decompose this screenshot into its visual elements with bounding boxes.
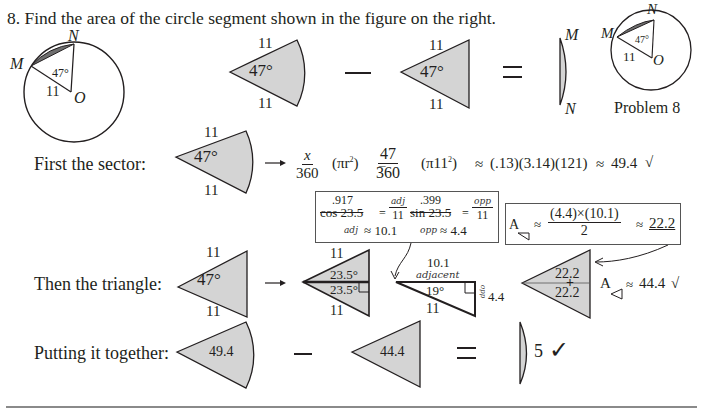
small-point-n-label: N (647, 2, 657, 17)
sector-arrow-head (280, 160, 286, 166)
adj-over-11: adj 11 (389, 197, 407, 221)
half-area-result: 22.2 (649, 216, 675, 231)
overview-triangle-angle: 47° (420, 63, 444, 80)
point-m-label: M (10, 56, 23, 72)
triangle-step-label: Then the triangle: (34, 275, 162, 293)
overview-segment-m: M (565, 27, 578, 43)
area-denominator: 2 (581, 223, 588, 238)
split-side-bottom: 11 (330, 304, 343, 318)
area-box: A ≈ (4.4)×(10.1) 2 ≈ 22.2 (505, 203, 681, 245)
pi-r-squared: (πr2) (332, 156, 359, 171)
opp-label: opp (420, 226, 437, 235)
right-tri-opposite-value: 4.4 (488, 290, 504, 303)
overview-segment-n: N (565, 101, 576, 117)
pi-11-squared: (π112) (421, 156, 457, 171)
combined-bottom-half-area: 22.2 (555, 286, 580, 300)
together-step-label: Putting it together: (34, 344, 169, 362)
triangle-area-approx: ≈ (626, 278, 633, 291)
opp-numerator: opp (472, 197, 493, 208)
fraction-denominator: 360 (296, 165, 319, 181)
fraction-47-over-360: 47 360 (376, 146, 400, 181)
triangle-step-angle: 47° (197, 271, 221, 288)
pi-r-close: ) (354, 155, 359, 171)
together-triangle-value: 44.4 (380, 345, 405, 359)
triangle-subscript-icon-2 (610, 288, 624, 300)
overview-triangle-side-top: 11 (429, 38, 443, 53)
triangle-step-side-bottom: 11 (206, 304, 220, 319)
triangle-check-mark: √ (671, 276, 679, 291)
overview-segment (560, 38, 566, 105)
final-check-mark: ✓ (549, 338, 569, 362)
approx-sign-1: ≈ (475, 157, 483, 172)
area-approx-1: ≈ (534, 218, 541, 231)
fraction-numerator: x (302, 148, 313, 165)
radius-label: 11 (46, 85, 59, 99)
sector-step-angle: 47° (194, 148, 218, 165)
point-n-label: N (68, 28, 79, 44)
adj-label: adj (344, 226, 358, 235)
right-tri-angle: 19° (426, 284, 444, 297)
overview-sector-side-bottom: 11 (258, 96, 272, 111)
overview-sector-side-top: 11 (258, 36, 272, 51)
split-angle-bottom: 23.5° (330, 283, 358, 296)
overview-sector-angle: 47° (249, 62, 273, 79)
triangle-area-total: 44.4 (639, 276, 665, 291)
point-o-label: O (74, 90, 86, 106)
pi-11-text: (π11 (421, 155, 448, 171)
overview-triangle-side-bottom: 11 (429, 97, 443, 112)
trig-eq-1: = (379, 207, 386, 219)
opp-over-11: opp 11 (472, 197, 493, 221)
figure-caption: Problem 8 (614, 100, 680, 116)
fraction-denominator: 360 (376, 164, 400, 181)
opp-denominator: 11 (477, 208, 489, 221)
hand-arrow-to-right-triangle (395, 243, 411, 276)
sector-step-side-top: 11 (204, 125, 218, 140)
sector-step-label: First the sector: (34, 155, 146, 173)
small-angle-label: 47° (635, 35, 649, 45)
fraction-x-over-360: x 360 (296, 148, 319, 181)
hand-arrow-to-combined (596, 245, 668, 262)
sin-expression: sin 23.5 (410, 206, 451, 219)
right-tri-adjacent-label: adjacent (416, 270, 459, 280)
combined-triangle (522, 250, 590, 318)
right-tri-adjacent-value: 10.1 (427, 256, 450, 269)
angle-label: 47° (52, 67, 69, 79)
sector-step-side-bottom: 11 (204, 183, 218, 198)
split-angle-top: 23.5° (330, 268, 358, 281)
pi-11-close: ) (452, 155, 457, 171)
area-approx-2: ≈ (636, 218, 643, 231)
together-segment (520, 322, 527, 384)
area-a-symbol: A (509, 218, 519, 232)
bottom-divider (6, 406, 697, 408)
small-radius-label: 11 (623, 50, 636, 63)
together-sector-value: 49.4 (209, 345, 234, 359)
trig-eq-2: = (462, 207, 469, 219)
opp-result: ≈ 4.4 (440, 224, 467, 237)
sector-area-result: 49.4 (611, 156, 637, 171)
product-expression: (.13)(3.14)(121) (490, 156, 587, 171)
fraction-numerator: 47 (378, 146, 398, 164)
approx-sign-2: ≈ (596, 157, 604, 172)
pi-r-text: (πr (332, 155, 350, 171)
split-side-top: 11 (330, 247, 343, 261)
segment-area-result: 5 (534, 342, 543, 360)
area-fraction: (4.4)×(10.1) 2 (548, 207, 621, 238)
triangle-arrow-head (280, 280, 286, 286)
right-tri-opp-label: opp (479, 285, 486, 298)
triangle-subscript-icon (517, 232, 531, 242)
sector-check-mark: √ (645, 155, 653, 170)
triangle-step-side-top: 11 (206, 245, 220, 260)
adj-numerator: adj (389, 197, 407, 208)
adj-denominator: 11 (392, 208, 404, 221)
adj-result: ≈ 10.1 (364, 224, 397, 237)
right-tri-hypotenuse: 11 (426, 302, 439, 316)
cos-expression: cos 23.5 (320, 206, 363, 219)
small-point-m-label: M (601, 26, 614, 41)
trig-box: .917 cos 23.5 = adj 11 .399 sin 23.5 = o… (315, 191, 499, 243)
small-point-o-label: O (653, 53, 664, 68)
area-numerator: (4.4)×(10.1) (548, 207, 621, 223)
